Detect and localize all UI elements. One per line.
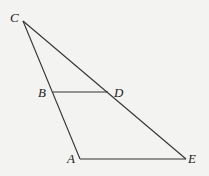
point-label-b: B <box>38 85 46 100</box>
point-label-c: C <box>10 10 19 25</box>
segment-ce <box>23 21 186 159</box>
triangle-diagram: C B D A E <box>0 0 209 176</box>
point-label-a: A <box>66 151 75 166</box>
point-label-d: D <box>113 85 124 100</box>
segment-ca <box>23 21 80 159</box>
point-label-e: E <box>187 151 196 166</box>
